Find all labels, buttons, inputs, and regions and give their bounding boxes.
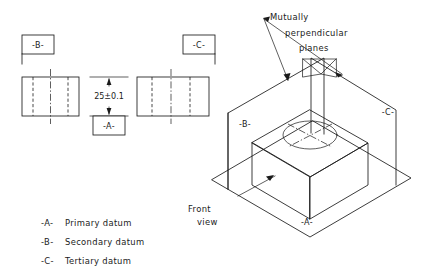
perpendicular-planes-note: Mutually perpendicular planes [263,12,348,81]
orthographic-views-group: -B- 25±0.1 -A- [22,35,215,135]
ortho-right-outline [137,77,209,116]
legend-text-2: Tertiary datum [64,256,131,266]
datum-c-text: -C- [193,41,206,50]
front-view-text-line2: view [197,217,218,227]
hole-ellipse [283,121,337,149]
datum-b-label-iso: -B- [239,120,251,129]
legend-symbol-0: -A- [41,218,53,228]
dim-arrow-up [107,78,112,85]
ortho-view-right [137,69,209,124]
note-arrowhead-left [284,73,291,81]
legend-text-0: Primary datum [65,218,132,228]
datum-legend: -A- Primary datum -B- Secondary datum -C… [41,218,144,266]
engineering-drawing-canvas: -B- 25±0.1 -A- [0,0,439,280]
datum-a-label-iso: -A- [301,218,313,227]
datum-symbol-b: -B- [22,35,54,64]
block-front-right-face [310,143,368,219]
block-front-left-face [252,143,310,219]
hole-feature [283,121,337,149]
legend-text-1: Secondary datum [65,237,144,247]
block-top-face [252,110,368,177]
front-view-text-line1: Front [188,204,211,214]
dimension-25: 25±0.1 [90,77,128,116]
datum-a-text: -A- [103,122,115,131]
front-view-callout: Front view [188,175,275,227]
datum-symbol-c-ortho: -C- [183,35,215,64]
technical-drawing-page: -B- 25±0.1 -A- [0,0,439,280]
note-text-line3: planes [299,43,329,53]
datum-c-label-iso: -C- [382,108,395,117]
vertical-plane-b: -B- [228,58,324,189]
datum-b-text: -B- [32,41,44,50]
plane-intersection-markers [303,59,336,77]
ortho-view-left [22,69,79,124]
legend-symbol-2: -C- [41,256,54,266]
note-text-line1: Mutually [270,12,309,22]
datum-symbol-a-ortho: -A- [93,116,125,135]
isometric-view-group: -B- -C- [188,12,411,237]
note-text-line2: perpendicular [285,28,348,38]
dim-arrow-down [107,108,112,115]
part-block [252,110,368,219]
dimension-value-text: 25±0.1 [94,92,124,101]
legend-symbol-1: -B- [41,237,54,247]
